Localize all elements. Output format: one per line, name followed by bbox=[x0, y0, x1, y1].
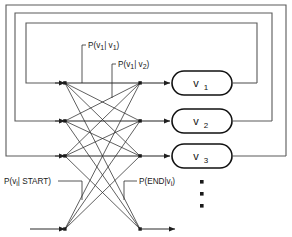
annotation-1-head: P(v bbox=[118, 60, 131, 69]
leader-line-p-v1-v2 bbox=[112, 64, 116, 98]
more-states-ellipsis bbox=[200, 180, 204, 208]
annotation-p-v1-given-v1: P(v1| v1) bbox=[88, 41, 120, 51]
annotation-0-head: P(v bbox=[88, 41, 101, 50]
state-node-v1-label: v bbox=[193, 77, 199, 89]
annotation-3-head: P(END|v bbox=[139, 177, 172, 186]
state-node-v2-label: v bbox=[193, 115, 199, 127]
feedback-loop-outer bbox=[6, 5, 286, 156]
annotation-2-head: P(v bbox=[4, 177, 17, 186]
state-node-v2[interactable]: v 2 bbox=[172, 109, 232, 133]
svg-text:P(v1| v1): P(v1| v1) bbox=[88, 41, 120, 51]
leader-line-p-v1-v1 bbox=[82, 45, 86, 83]
state-node-v1-subscript: 1 bbox=[204, 83, 209, 92]
diagram-canvas: v 1 v 2 v 3 bbox=[0, 0, 292, 237]
annotation-2-mid: | START bbox=[18, 177, 48, 186]
state-transition-diagram: v 1 v 2 v 3 bbox=[0, 0, 292, 237]
leader-line-p-vi-start bbox=[58, 181, 82, 200]
annotation-p-v1-given-v2: P(v1| v2) bbox=[118, 60, 150, 70]
state-exit-lines bbox=[232, 83, 286, 156]
svg-text:P(vi| START): P(vi| START) bbox=[4, 177, 51, 187]
svg-text:P(v1| v2): P(v1| v2) bbox=[118, 60, 150, 70]
leader-line-p-end-vi bbox=[124, 181, 137, 200]
annotation-2-close: ) bbox=[48, 177, 51, 186]
state-entry-arrows bbox=[140, 83, 170, 156]
state-node-v2-subscript: 2 bbox=[204, 121, 209, 130]
annotation-1-close: ) bbox=[147, 60, 150, 69]
state-node-v3[interactable]: v 3 bbox=[172, 144, 232, 168]
annotation-0-close: ) bbox=[117, 41, 120, 50]
state-node-v3-label: v bbox=[193, 150, 199, 162]
svg-text:P(END|vi): P(END|vi) bbox=[139, 177, 175, 187]
annotation-p-vi-given-start: P(vi| START) bbox=[4, 177, 51, 187]
annotation-3-close: ) bbox=[172, 177, 175, 186]
state-node-v3-subscript: 3 bbox=[204, 156, 209, 165]
state-node-v1[interactable]: v 1 bbox=[172, 71, 232, 95]
annotation-p-end-given-vi: P(END|vi) bbox=[139, 177, 175, 187]
